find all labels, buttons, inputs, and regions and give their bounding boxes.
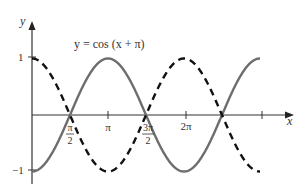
x-tick-label-3pi-half-num: 3π bbox=[143, 122, 153, 133]
y-tick-label-1: 1 bbox=[18, 51, 24, 63]
annotation: y = cos (x + π) bbox=[74, 37, 145, 51]
chart: y 1 −1 y = cos (x + π) π 2 π 3π 2 2π x bbox=[0, 0, 306, 194]
plot-area: y 1 −1 y = cos (x + π) π 2 π 3π 2 2π x bbox=[0, 0, 306, 194]
x-tick-label-pi-half-den: 2 bbox=[68, 135, 73, 146]
x-tick-label-pi-half-num: π bbox=[67, 122, 72, 133]
y-axis-label: y bbox=[19, 14, 26, 28]
y-tick-label-neg1: −1 bbox=[12, 164, 24, 176]
x-tick-label-2pi: 2π bbox=[180, 120, 192, 132]
x-axis-label: x bbox=[286, 114, 293, 128]
x-tick-label-3pi-half-den: 2 bbox=[146, 135, 151, 146]
y-axis-arrow-icon bbox=[29, 21, 36, 30]
x-tick-label-pi: π bbox=[105, 121, 111, 133]
